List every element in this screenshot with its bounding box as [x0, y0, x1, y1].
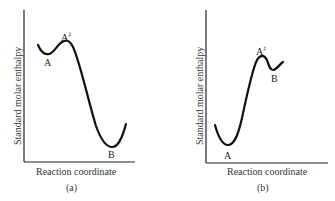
panel-b-label-product: B: [271, 74, 278, 84]
double-dagger-superscript: ‡: [68, 31, 71, 37]
double-dagger-superscript: ‡: [263, 45, 266, 51]
panel-a-enthalpy-curve: [38, 41, 126, 147]
panel-a-axes: [24, 10, 135, 162]
panel-a-label-product: B: [108, 150, 115, 160]
panel-a-xlabel: Reaction coordinate: [36, 167, 116, 177]
panel-a-ylabel: Standard molar enthalpy: [13, 47, 23, 145]
panel-a-label-reactant: A: [44, 58, 51, 68]
panel-b-enthalpy-curve: [215, 56, 283, 145]
panel-a-label-transition-state: A‡: [61, 29, 71, 43]
panel-b-xlabel: Reaction coordinate: [227, 167, 307, 177]
panel-b-ylabel: Standard molar enthalpy: [195, 47, 205, 145]
panel-b-axes: [206, 10, 328, 163]
panel-a-caption: (a): [66, 182, 77, 193]
panel-b-label-transition-state: A‡: [256, 43, 266, 57]
panel-b-caption: (b): [257, 182, 269, 193]
panel-b-label-reactant: A: [224, 151, 231, 161]
